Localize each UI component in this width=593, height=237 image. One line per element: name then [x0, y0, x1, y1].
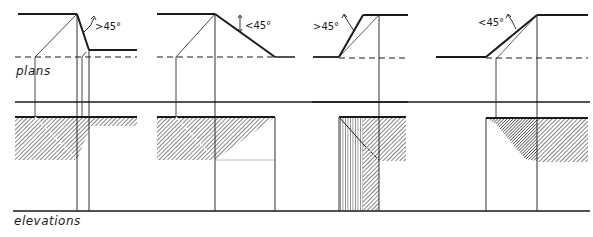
elevation-shadow — [363, 117, 406, 211]
panel-4 — [436, 14, 588, 211]
angle-arrow-icon — [84, 18, 94, 32]
panel-2-angle-label: <45° — [245, 20, 271, 31]
panel-1-angle-label: >45° — [95, 21, 121, 32]
angle-arrow-icon — [344, 15, 354, 31]
elevation-shadow-dense — [486, 118, 537, 161]
steep-slope — [77, 14, 89, 50]
panel-3 — [312, 14, 408, 211]
elevation-shadow — [537, 118, 588, 162]
panel-2 — [157, 14, 295, 211]
shadow-projection-diagram: >45° <45° >45° — [0, 0, 593, 237]
shadow-ray — [35, 14, 77, 57]
elevation-shadow — [15, 117, 137, 160]
panel-1 — [15, 14, 137, 211]
panel-3-angle-label: >45° — [313, 21, 339, 32]
angle-arrow-icon — [508, 15, 516, 29]
plans-label: plans — [16, 64, 51, 78]
elevations-label: elevations — [14, 214, 81, 228]
shadow-ray — [176, 14, 215, 57]
panel-4-angle-label: <45° — [478, 17, 504, 28]
elevation-shadow — [157, 117, 275, 160]
